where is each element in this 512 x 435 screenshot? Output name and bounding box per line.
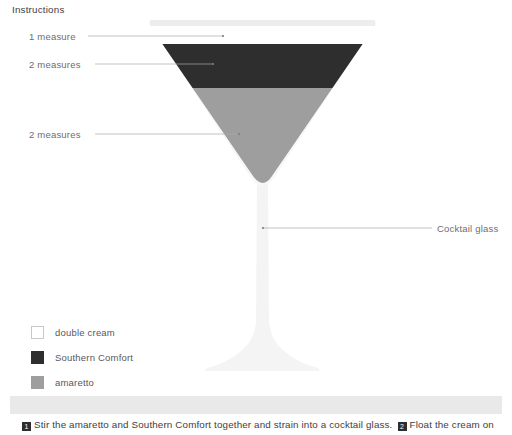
legend-label-amaretto: amaretto bbox=[55, 377, 94, 388]
step-marker-1: 1 bbox=[22, 422, 31, 431]
leader-dot-southern-comfort bbox=[212, 63, 214, 65]
instructions-header-bar bbox=[10, 396, 502, 414]
legend-item-southern-comfort: Southern Comfort bbox=[31, 347, 231, 368]
layer-double-cream bbox=[140, 26, 385, 44]
leader-dot-amaretto bbox=[238, 133, 240, 135]
instructions-body: 1Stir the amaretto and Southern Comfort … bbox=[22, 419, 502, 431]
leader-dot-glass bbox=[262, 227, 264, 229]
legend-label-double-cream: double cream bbox=[55, 327, 115, 338]
callout-label-cocktail-glass: Cocktail glass bbox=[437, 224, 498, 234]
layer-southern-comfort bbox=[140, 44, 385, 88]
glass-stem bbox=[256, 180, 269, 324]
callout-label-amaretto: 2 measures bbox=[29, 130, 81, 140]
step-marker-2: 2 bbox=[398, 422, 407, 431]
infographic-canvas: 1 measure 2 measures 2 measures Cocktail… bbox=[0, 0, 512, 435]
instructions-header-label: Instructions bbox=[12, 4, 65, 15]
legend-swatch-amaretto bbox=[31, 376, 44, 389]
step-text-2: Float the cream on bbox=[410, 419, 494, 430]
callout-label-double-cream: 1 measure bbox=[29, 32, 76, 42]
legend-swatch-southern-comfort bbox=[31, 351, 44, 364]
legend-swatch-double-cream bbox=[31, 326, 44, 339]
legend-item-amaretto: amaretto bbox=[31, 372, 231, 393]
layer-amaretto bbox=[140, 88, 385, 193]
step-text-1: Stir the amaretto and Southern Comfort t… bbox=[34, 419, 393, 430]
legend-item-double-cream: double cream bbox=[31, 322, 231, 343]
callout-label-southern-comfort: 2 measures bbox=[29, 60, 81, 70]
legend: double cream Southern Comfort amaretto bbox=[31, 322, 231, 397]
legend-label-southern-comfort: Southern Comfort bbox=[55, 352, 133, 363]
glass-rim bbox=[150, 20, 375, 26]
leader-dot-cream bbox=[222, 35, 224, 37]
